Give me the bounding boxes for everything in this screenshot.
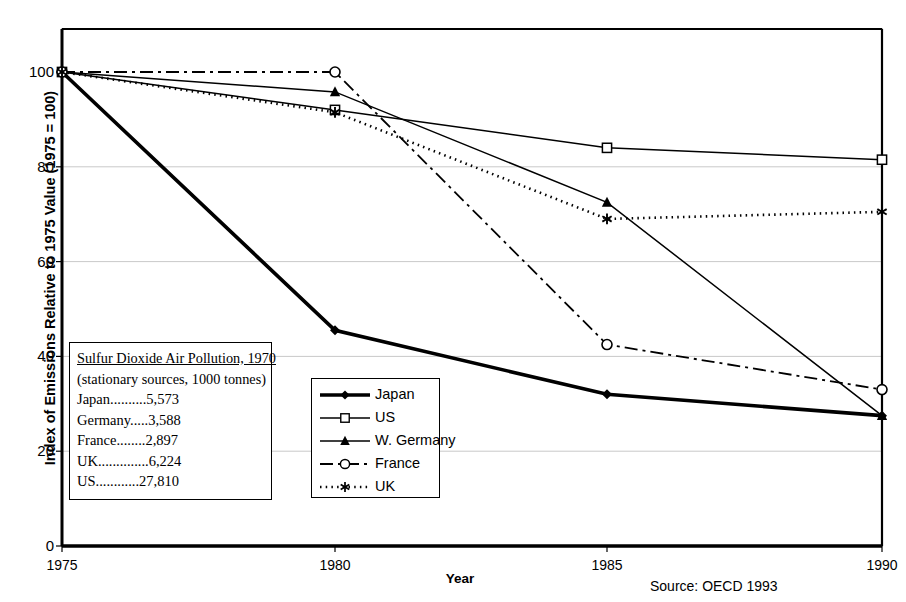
legend-item-uk[interactable]: UK bbox=[312, 475, 439, 498]
legend-item-france[interactable]: France bbox=[312, 452, 439, 475]
legend-item-w-germany[interactable]: W. Germany bbox=[312, 429, 439, 452]
y-tick-label-60: 60 bbox=[8, 254, 54, 269]
legend-marker-open-square bbox=[317, 408, 373, 428]
marker-open-square bbox=[877, 155, 886, 164]
marker-filled-diamond bbox=[340, 390, 349, 399]
series-us bbox=[57, 67, 886, 164]
y-tick-label-100: 100 bbox=[8, 64, 54, 79]
marker-open-circle bbox=[330, 67, 340, 77]
legend-marker-filled-diamond bbox=[317, 385, 373, 405]
x-axis-title: Year bbox=[420, 571, 500, 586]
marker-open-square bbox=[341, 413, 349, 421]
series-line bbox=[62, 72, 882, 219]
chart-legend: JapanUSW. GermanyFranceUK bbox=[311, 378, 440, 498]
annotation-row: UK..............6,224 bbox=[77, 451, 264, 472]
marker-asterisk bbox=[341, 482, 350, 492]
series-uk bbox=[57, 67, 886, 225]
annotation-row: Germany.....3,588 bbox=[77, 410, 264, 431]
legend-label: UK bbox=[375, 479, 395, 494]
annotation-box-title: Sulfur Dioxide Air Pollution, 1970 bbox=[77, 348, 264, 369]
marker-filled-diamond bbox=[602, 389, 612, 399]
marker-open-circle bbox=[340, 459, 349, 468]
series-line bbox=[62, 72, 882, 160]
marker-asterisk bbox=[877, 206, 886, 217]
legend-item-us[interactable]: US bbox=[312, 406, 439, 429]
chart-container: Index of Emissions Relative to 1975 Valu… bbox=[0, 0, 906, 602]
annotation-row: Japan..........5,573 bbox=[77, 389, 264, 410]
legend-label: W. Germany bbox=[375, 433, 456, 448]
legend-marker-filled-triangle bbox=[317, 431, 373, 451]
y-axis-title: Index of Emissions Relative to 1975 Valu… bbox=[42, 18, 58, 538]
annotation-row: US............27,810 bbox=[77, 471, 264, 492]
marker-filled-triangle bbox=[602, 197, 612, 207]
legend-item-japan[interactable]: Japan bbox=[312, 383, 439, 406]
legend-label: US bbox=[375, 410, 395, 425]
legend-marker-asterisk bbox=[317, 477, 373, 497]
x-tick-label-1980: 1980 bbox=[300, 558, 370, 572]
annotation-box-rows: Japan..........5,573Germany.....3,588Fra… bbox=[77, 389, 264, 492]
annotation-box-subtitle: (stationary sources, 1000 tonnes) bbox=[77, 369, 264, 390]
marker-open-circle bbox=[877, 385, 887, 395]
marker-open-circle bbox=[602, 340, 612, 350]
legend-marker-open-circle bbox=[317, 454, 373, 474]
x-tick-label-1985: 1985 bbox=[572, 558, 642, 572]
plot-area bbox=[0, 0, 906, 602]
annotation-data-box: Sulfur Dioxide Air Pollution, 1970 (stat… bbox=[69, 342, 272, 500]
y-tick-label-80: 80 bbox=[8, 159, 54, 174]
marker-open-square bbox=[602, 143, 611, 152]
legend-label: France bbox=[375, 456, 420, 471]
legend-label: Japan bbox=[375, 387, 415, 402]
source-note: Source: OECD 1993 bbox=[650, 578, 778, 594]
annotation-row: France........2,897 bbox=[77, 430, 264, 451]
x-tick-label-1975: 1975 bbox=[27, 558, 97, 572]
y-tick-label-0: 0 bbox=[8, 538, 54, 553]
y-tick-label-40: 40 bbox=[8, 348, 54, 363]
y-tick-label-20: 20 bbox=[8, 443, 54, 458]
x-tick-label-1990: 1990 bbox=[847, 558, 906, 572]
